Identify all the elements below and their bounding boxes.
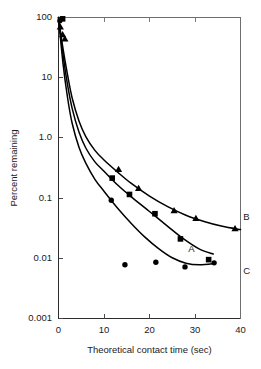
log-decay-chart: 100101.00.10.010.001 010203040 ABC Theor… — [0, 0, 261, 369]
x-axis-title: Theoretical contact time (sec) — [87, 344, 212, 355]
curve-label-B: B — [243, 211, 249, 222]
data-point-B-3 — [115, 166, 122, 172]
series-curves — [59, 18, 241, 265]
y-tick-label-0: 100 — [36, 11, 52, 22]
data-point-C-0 — [57, 18, 62, 23]
curve-A — [59, 18, 214, 254]
x-axis-tick-labels: 010203040 — [56, 324, 246, 335]
y-tick-label-3: 0.1 — [39, 192, 52, 203]
x-tick-label-2: 20 — [144, 324, 155, 335]
data-point-B-0 — [57, 23, 64, 29]
plot-frame — [59, 18, 241, 319]
y-axis-tick-labels: 100101.00.10.010.001 — [28, 11, 52, 323]
axis-left-bottom — [59, 18, 241, 319]
x-tick-label-4: 40 — [235, 324, 246, 335]
curve-B — [59, 18, 241, 230]
data-point-A-4 — [178, 236, 184, 242]
data-point-C-5 — [211, 260, 216, 265]
y-axis-title: Percent remaining — [8, 129, 19, 206]
y-tick-label-5: 0.001 — [28, 312, 52, 323]
y-tick-label-2: 1.0 — [39, 131, 52, 142]
data-point-C-4 — [182, 264, 187, 269]
data-point-A-5 — [206, 257, 212, 263]
data-point-C-1 — [109, 198, 114, 203]
data-point-C-3 — [153, 260, 158, 265]
data-point-A-3 — [152, 211, 158, 217]
x-tick-label-1: 10 — [99, 324, 110, 335]
x-tick-label-0: 0 — [56, 324, 61, 335]
x-tick-label-3: 30 — [190, 324, 201, 335]
data-point-A-2 — [127, 192, 133, 198]
y-tick-label-1: 10 — [41, 71, 52, 82]
chart-figure: 100101.00.10.010.001 010203040 ABC Theor… — [0, 0, 261, 369]
curve-label-A: A — [188, 243, 195, 254]
data-point-A-1 — [109, 175, 115, 181]
axis-ticks — [59, 18, 196, 319]
data-point-C-2 — [122, 262, 127, 267]
curve-label-C: C — [243, 265, 250, 276]
axis-top-right — [59, 18, 241, 319]
y-tick-label-4: 0.01 — [34, 252, 53, 263]
